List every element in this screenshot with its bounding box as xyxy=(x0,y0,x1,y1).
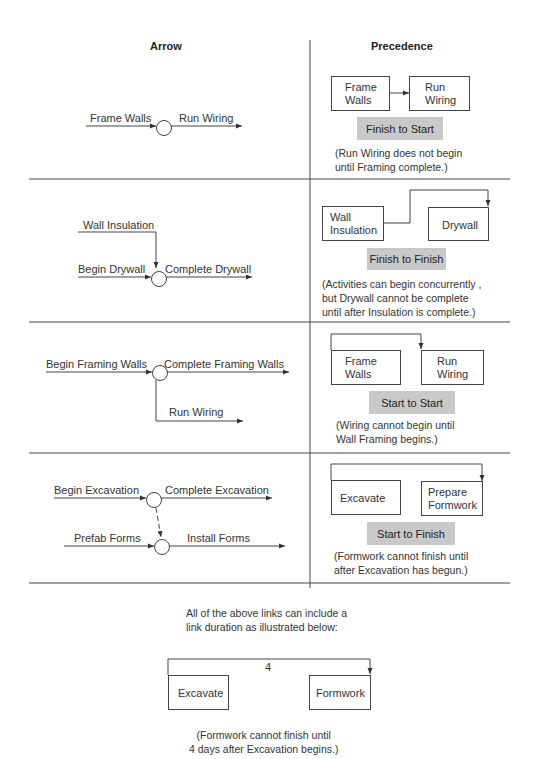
activity-label-complete-framing-walls: Complete Framing Walls xyxy=(164,358,284,370)
note-fs: (Run Wiring does not begin until Framing… xyxy=(335,146,462,174)
activity-box-drywall: Drywall xyxy=(428,207,489,241)
activity-label-frame-walls: Frame Walls xyxy=(90,112,151,124)
activity-label-begin-drywall: Begin Drywall xyxy=(78,263,145,275)
activity-label-run-wiring-branch: Run Wiring xyxy=(169,406,223,418)
dummy-dashed-arrow xyxy=(156,508,161,537)
activity-box-frame-walls-ss: Frame Walls xyxy=(331,350,401,385)
arrow-column-header: Arrow xyxy=(150,40,182,52)
activity-label-install-forms: Install Forms xyxy=(187,532,250,544)
note-sf: (Formwork cannot finish until after Exca… xyxy=(334,549,468,577)
footer-note: (Formwork cannot finish until 4 days aft… xyxy=(189,728,338,756)
activity-label-run-wiring: Run Wiring xyxy=(179,112,233,124)
activity-box-excavate: Excavate xyxy=(331,480,401,515)
activity-label-begin-excavation: Begin Excavation xyxy=(54,484,139,496)
activity-box-prepare-formwork: Prepare Formwork xyxy=(421,481,483,516)
activity-box-frame-walls: Frame Walls xyxy=(331,76,390,111)
activity-label-begin-framing-walls: Begin Framing Walls xyxy=(46,358,147,370)
activity-box-wall-insulation: Wall Insulation xyxy=(322,206,384,241)
activity-label-complete-excavation: Complete Excavation xyxy=(165,484,269,496)
note-ss: (Wiring cannot begin until Wall Framing … xyxy=(336,418,454,446)
relationship-label-ss: Start to Start xyxy=(369,391,455,414)
link-ss xyxy=(331,334,421,350)
event-node xyxy=(147,493,162,508)
activity-box-run-wiring-ss: Run Wiring xyxy=(421,350,484,385)
activity-box-formwork-footer: Formwork xyxy=(309,675,371,710)
activity-label-complete-drywall: Complete Drywall xyxy=(165,263,251,275)
relationship-label-sf: Start to Finish xyxy=(367,522,455,545)
event-node xyxy=(155,540,170,555)
link-duration-value: 4 xyxy=(265,661,271,673)
precedence-column-header: Precedence xyxy=(371,40,433,52)
link-sf xyxy=(331,464,482,481)
activity-box-excavate-footer: Excavate xyxy=(168,675,229,710)
relationship-label-ff: Finish to Finish xyxy=(367,248,446,270)
event-node xyxy=(157,121,172,136)
activity-label-prefab-forms: Prefab Forms xyxy=(74,532,141,544)
relationship-label-fs: Finish to Start xyxy=(357,117,443,140)
activity-box-run-wiring: Run Wiring xyxy=(409,76,470,111)
footer-intro: All of the above links can include a lin… xyxy=(186,606,347,634)
note-ff: (Activities can begin concurrently , but… xyxy=(322,277,481,319)
activity-label-wall-insulation: Wall Insulation xyxy=(83,219,154,231)
